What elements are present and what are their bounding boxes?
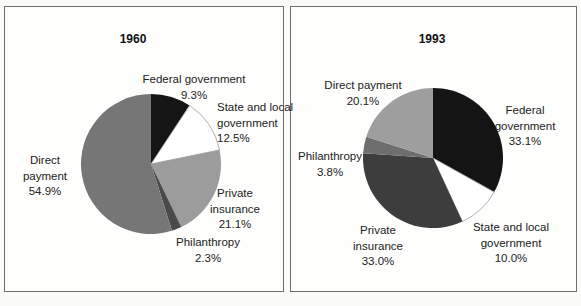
dual-pie-chart-figure: 1960 1993 Federal government 9.3% State … <box>0 0 581 306</box>
slice-label-direct-payment-1960: Direct payment 54.9% <box>5 153 85 200</box>
slice-label-private-insurance-1960: Private insurance 21.1% <box>195 186 275 233</box>
slice-label-direct-payment-1993: Direct payment 20.1% <box>303 78 423 109</box>
slice-label-state-local-government-1960: State and local government 12.5% <box>217 100 297 147</box>
slice-label-federal-government-1960: Federal government 9.3% <box>124 72 264 103</box>
slice-label-private-insurance-1993: Private insurance 33.0% <box>338 223 418 270</box>
slice-label-federal-government-1993: Federal government 33.1% <box>475 103 575 150</box>
chart-title-1960: 1960 <box>83 32 183 46</box>
slice-label-state-local-government-1993: State and local government 10.0% <box>461 220 561 267</box>
chart-title-1993: 1993 <box>382 32 482 46</box>
slice-label-philanthropy-1993: Philanthropy 3.8% <box>280 149 380 180</box>
slice-label-philanthropy-1960: Philanthropy 2.3% <box>158 235 258 266</box>
